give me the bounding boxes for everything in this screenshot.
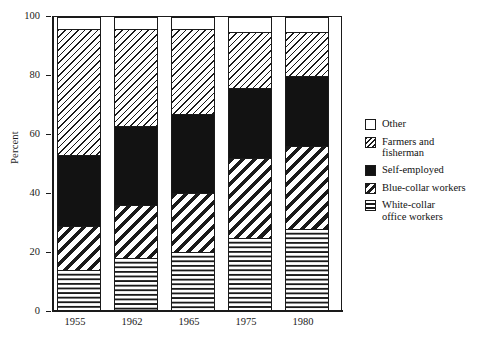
legend-label-white-collar-line2: office workers <box>382 211 443 222</box>
bar-segment-white-collar-office-workers-1980 <box>285 229 329 311</box>
bar-segment-other-1955 <box>57 17 101 29</box>
bar-segment-white-collar-office-workers-1955 <box>57 270 101 311</box>
y-tick-label-40: 40 <box>2 188 40 199</box>
bar-segment-self-employed-1980 <box>285 76 329 147</box>
legend-label-farmers-line2: fisherman <box>382 147 424 158</box>
bar-column-1975 <box>228 17 272 311</box>
bar-segment-blue-collar-workers-1965 <box>171 193 215 252</box>
bar-column-1955 <box>57 17 101 311</box>
legend-item-farmers: Farmers and fisherman <box>365 136 489 159</box>
legend-item-self-employed: Self-employed <box>365 164 489 176</box>
y-tick-mark-40 <box>46 193 51 194</box>
bar-segment-self-employed-1975 <box>228 88 272 159</box>
bar-segment-other-1962 <box>114 17 158 29</box>
legend-label-white-collar: White-collar <box>382 199 435 210</box>
legend-label-blue-collar: Blue-collar workers <box>382 182 466 193</box>
bar-segment-other-1965 <box>171 17 215 29</box>
y-tick-mark-60 <box>46 134 51 135</box>
bar-segment-blue-collar-workers-1975 <box>228 158 272 237</box>
bar-segment-white-collar-office-workers-1965 <box>171 252 215 311</box>
bar-segment-other-1980 <box>285 17 329 32</box>
bar-column-1962 <box>114 17 158 311</box>
y-tick-label-100: 100 <box>2 11 40 22</box>
bar-segment-self-employed-1965 <box>171 114 215 193</box>
bar-segment-blue-collar-workers-1980 <box>285 146 329 228</box>
bar-segment-farmers-and-fisherman-1980 <box>285 32 329 76</box>
bar-segment-farmers-and-fisherman-1955 <box>57 29 101 155</box>
y-tick-label-20: 20 <box>2 247 40 258</box>
legend-item-other: Other <box>365 118 489 130</box>
bar-segment-other-1975 <box>228 17 272 32</box>
y-tick-label-80: 80 <box>2 70 40 81</box>
bars-layer <box>53 17 341 311</box>
bar-segment-blue-collar-workers-1962 <box>114 205 158 258</box>
y-tick-mark-80 <box>46 75 51 76</box>
fine-hatch-swatch-icon <box>365 137 376 148</box>
bar-column-1965 <box>171 17 215 311</box>
bar-segment-blue-collar-workers-1955 <box>57 226 101 270</box>
bar-segment-self-employed-1955 <box>57 155 101 226</box>
legend-label-other: Other <box>382 118 406 129</box>
legend-item-blue-collar: Blue-collar workers <box>365 182 489 194</box>
y-tick-label-60: 60 <box>2 129 40 140</box>
bar-segment-farmers-and-fisherman-1962 <box>114 29 158 126</box>
y-tick-mark-0 <box>46 311 51 312</box>
empty-swatch-icon <box>365 119 376 130</box>
stacked-bar-chart-figure: Percent 100 80 60 40 20 0 1955 1962 1965… <box>0 0 489 339</box>
bar-column-1980 <box>285 17 329 311</box>
solid-black-swatch-icon <box>365 165 376 176</box>
y-tick-mark-20 <box>46 252 51 253</box>
legend-item-white-collar: White-collar office workers <box>365 199 489 222</box>
thick-hatch-swatch-icon <box>365 183 376 194</box>
legend-label-self-employed: Self-employed <box>382 164 444 175</box>
y-tick-mark-100 <box>46 16 51 17</box>
chart-legend: Other Farmers and fisherman Self-employe… <box>365 118 489 228</box>
bar-segment-farmers-and-fisherman-1975 <box>228 32 272 88</box>
bar-segment-white-collar-office-workers-1975 <box>228 238 272 312</box>
bar-segment-self-employed-1962 <box>114 126 158 205</box>
y-axis-title: Percent <box>9 113 20 183</box>
x-tick-label-1980: 1980 <box>268 316 338 327</box>
y-tick-label-0: 0 <box>2 306 40 317</box>
dotted-swatch-icon <box>365 200 376 211</box>
bar-segment-farmers-and-fisherman-1965 <box>171 29 215 114</box>
bar-segment-white-collar-office-workers-1962 <box>114 258 158 311</box>
legend-label-farmers: Farmers and <box>382 136 434 147</box>
